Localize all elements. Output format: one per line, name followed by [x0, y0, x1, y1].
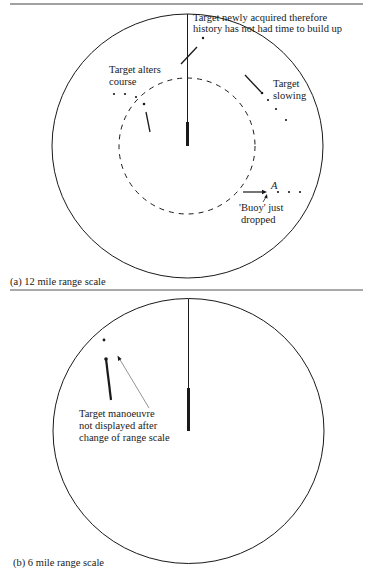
panel-a-12-mile: Target newly acquired therefore history … — [10, 12, 342, 288]
panel-b-6-mile: Target manoeuvre not displayed after cha… — [13, 299, 324, 570]
history-dot — [285, 119, 287, 121]
caption-a: (a) 12 mile range scale — [10, 276, 106, 288]
radar-diagram: Target newly acquired therefore history … — [0, 0, 373, 576]
arrowhead-icon — [118, 356, 122, 362]
history-dot — [113, 93, 115, 95]
history-dot — [299, 191, 301, 193]
target-dot — [103, 339, 106, 342]
label-slowing-2: slowing — [273, 90, 307, 101]
history-dot — [124, 93, 126, 95]
history-dot — [135, 96, 137, 98]
history-dot — [267, 99, 269, 101]
target-dot — [261, 92, 264, 95]
arrowhead-icon — [264, 194, 267, 199]
label-manoeuvre-3: change of range scale — [79, 432, 170, 443]
history-dot — [288, 191, 290, 193]
label-alters-1: Target alters — [109, 64, 161, 75]
arrowhead-icon — [262, 190, 267, 194]
label-slowing-1: Target — [273, 78, 300, 89]
label-manoeuvre-1: Target manoeuvre — [79, 408, 155, 419]
label-point-a: A — [270, 180, 278, 191]
label-new-target-1: Target newly acquired therefore — [193, 12, 327, 23]
label-new-target-2: history has not had time to build up — [193, 23, 342, 34]
target-vector — [245, 75, 261, 92]
target-vector — [106, 359, 111, 400]
history-dot — [143, 103, 146, 106]
label-manoeuvre-2: not displayed after — [79, 420, 158, 431]
label-buoy-1: 'Buoy' just — [239, 202, 283, 213]
target-dot — [202, 37, 204, 39]
history-dot — [275, 108, 277, 110]
target-vector — [181, 47, 197, 64]
label-buoy-2: dropped — [241, 214, 276, 225]
leader-line — [119, 358, 149, 408]
label-alters-2: course — [109, 76, 137, 87]
target-vector — [146, 112, 150, 132]
caption-b: (b) 6 mile range scale — [13, 557, 104, 569]
history-dot — [277, 191, 279, 193]
